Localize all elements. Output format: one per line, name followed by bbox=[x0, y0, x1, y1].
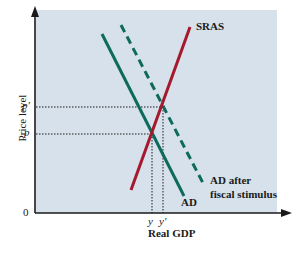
ad-label: AD bbox=[181, 196, 197, 208]
ad-after-label-line2: fiscal stimulus bbox=[210, 188, 277, 200]
x-axis-arrow-icon bbox=[281, 209, 292, 217]
tick-label-y-prime: y′ bbox=[159, 215, 166, 227]
y-axis-label: Price level bbox=[16, 88, 28, 148]
ad-after-label-line1: AD after bbox=[210, 174, 251, 186]
tick-label-p: p bbox=[24, 126, 30, 138]
tick-label-p-prime: p′ bbox=[22, 99, 30, 111]
origin-label: 0 bbox=[23, 206, 29, 218]
x-axis-label: Real GDP bbox=[148, 227, 195, 239]
sras-label: SRAS bbox=[196, 20, 224, 32]
tick-label-y: y bbox=[148, 215, 153, 227]
